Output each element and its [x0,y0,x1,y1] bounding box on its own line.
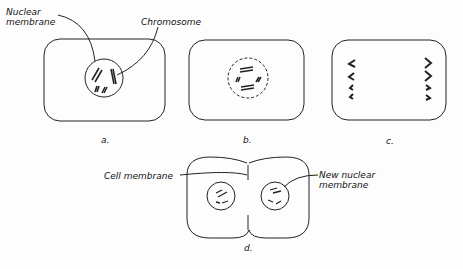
caption-c: c. [386,136,394,146]
label-line: membrane [6,17,55,27]
caption-d: d. [244,243,253,253]
panel-b-cell [189,40,304,120]
label-chromosome: Chromosome [141,17,201,27]
caption-a: a. [101,135,109,145]
label-cell-membrane: Cell membrane [104,171,173,181]
label-line: membrane [319,180,375,190]
diagram-drawing [0,0,463,269]
label-line: Nuclear [6,7,55,17]
label-line: New nuclear [319,170,375,180]
mitosis-diagram: Nuclear membrane Chromosome Cell membran… [0,0,463,269]
caption-b: b. [243,135,252,145]
panel-c-cell [332,40,446,120]
panel-d-cells [180,157,318,238]
label-nuclear-membrane: Nuclear membrane [6,7,55,27]
label-new-nuclear-membrane: New nuclear membrane [319,170,375,190]
panel-a-cell [44,15,165,121]
